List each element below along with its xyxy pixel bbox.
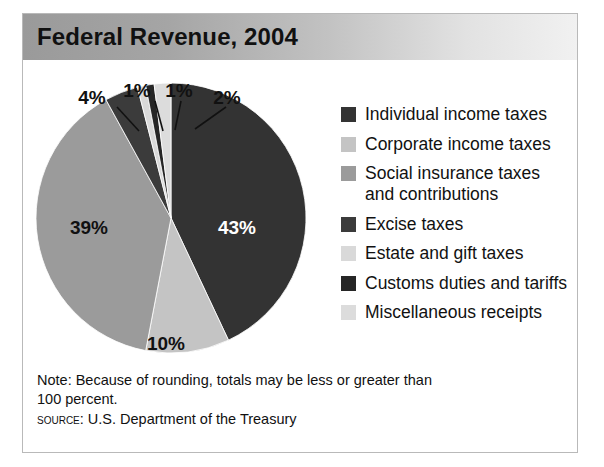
pie-slice-value-label: 10% — [147, 333, 185, 354]
legend-label: Social insurance taxes and contributions — [365, 163, 540, 205]
plot-area: 4%1%1%2% 43%39%10% Individual income tax… — [23, 60, 577, 360]
chart-figure: Federal Revenue, 2004 4%1%1%2% 43%39%10%… — [22, 13, 578, 453]
source-label: Source: — [37, 411, 84, 427]
legend-label: Individual income taxes — [365, 104, 547, 125]
legend-label: Customs duties and tariffs — [365, 273, 567, 294]
list-item: Excise taxes — [341, 214, 579, 235]
list-item: Individual income taxes — [341, 104, 579, 125]
pie-slice-value-label: 1% — [165, 82, 193, 101]
legend-swatch-customs-duties-and-tariffs — [341, 276, 356, 291]
pie-slice-value-label: 1% — [123, 82, 151, 101]
legend-swatch-corporate-income-taxes — [341, 137, 356, 152]
footnote: Note: Because of rounding, totals may be… — [37, 371, 557, 429]
page-title: Federal Revenue, 2004 — [37, 23, 298, 51]
pie-chart: 4%1%1%2% 43%39%10% — [35, 82, 307, 354]
pie-slice-value-label: 4% — [78, 87, 106, 108]
source-line: Source: U.S. Department of the Treasury — [37, 410, 557, 429]
legend-label: Miscellaneous receipts — [365, 302, 542, 323]
legend-swatch-estate-and-gift-taxes — [341, 246, 356, 261]
pie-svg: 4%1%1%2% 43%39%10% — [35, 82, 307, 354]
legend-label: Corporate income taxes — [365, 134, 551, 155]
pie-slice-value-label: 39% — [70, 217, 108, 238]
list-item: Customs duties and tariffs — [341, 273, 579, 294]
legend-swatch-miscellaneous-receipts — [341, 305, 356, 320]
list-item: Estate and gift taxes — [341, 243, 579, 264]
legend-swatch-excise-taxes — [341, 217, 356, 232]
legend-swatch-social-insurance-taxes — [341, 166, 356, 181]
legend-label: Excise taxes — [365, 214, 463, 235]
legend: Individual income taxes Corporate income… — [341, 104, 579, 332]
legend-swatch-individual-income-taxes — [341, 107, 356, 122]
list-item: Social insurance taxes and contributions — [341, 163, 579, 205]
list-item: Miscellaneous receipts — [341, 302, 579, 323]
list-item: Corporate income taxes — [341, 134, 579, 155]
legend-label: Estate and gift taxes — [365, 243, 524, 264]
source-text: U.S. Department of the Treasury — [88, 411, 297, 427]
note-text: Note: Because of rounding, totals may be… — [37, 371, 557, 409]
title-bar: Federal Revenue, 2004 — [23, 14, 577, 60]
pie-slice-value-label: 43% — [218, 217, 256, 238]
pie-slice-value-label: 2% — [213, 87, 241, 108]
